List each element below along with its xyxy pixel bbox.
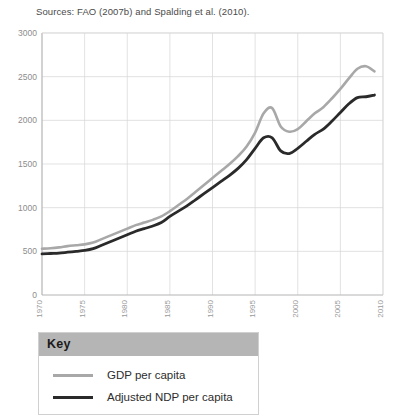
y-axis-tick-labels: 050010001500200025003000 (18, 28, 37, 300)
grid-lines (42, 33, 383, 295)
legend-item-adjusted-ndp: Adjusted NDP per capita (39, 386, 258, 408)
legend-items: GDP per capita Adjusted NDP per capita (39, 356, 258, 414)
x-tick-label: 1985 (163, 299, 172, 317)
y-tick-label: 2000 (18, 115, 37, 125)
x-tick-label: 2005 (333, 299, 342, 317)
y-tick-label: 1000 (18, 203, 37, 213)
legend-label-gdp: GDP per capita (107, 369, 185, 381)
y-tick-label: 500 (23, 246, 37, 256)
x-tick-label: 1975 (78, 299, 87, 317)
y-tick-label: 2500 (18, 72, 37, 82)
legend-label-adjusted-ndp: Adjusted NDP per capita (107, 391, 233, 403)
x-tick-label: 2000 (291, 299, 300, 317)
series-line-adjusted-ndp (42, 95, 374, 254)
legend-item-gdp: GDP per capita (39, 364, 258, 386)
legend-title: Key (39, 333, 258, 356)
x-tick-label: 1970 (35, 299, 44, 317)
y-tick-label: 1500 (18, 159, 37, 169)
legend-key-box: Key GDP per capita Adjusted NDP per capi… (38, 332, 259, 415)
chart-canvas: 050010001500200025003000 197019751980198… (0, 0, 395, 330)
x-tick-label: 2010 (376, 299, 385, 317)
line-chart: 050010001500200025003000 197019751980198… (0, 0, 395, 330)
series-lines (42, 66, 374, 254)
x-tick-label: 1990 (206, 299, 215, 317)
series-line-gdp (42, 66, 374, 249)
x-tick-label: 1980 (120, 299, 129, 317)
x-axis-tick-labels: 197019751980198519901995200020052010 (35, 299, 385, 317)
y-tick-label: 3000 (18, 28, 37, 38)
y-tick-label: 0 (32, 290, 37, 300)
x-tick-label: 1995 (248, 299, 257, 317)
legend-swatch-adjusted-ndp (53, 396, 93, 399)
legend-swatch-gdp (53, 374, 93, 377)
